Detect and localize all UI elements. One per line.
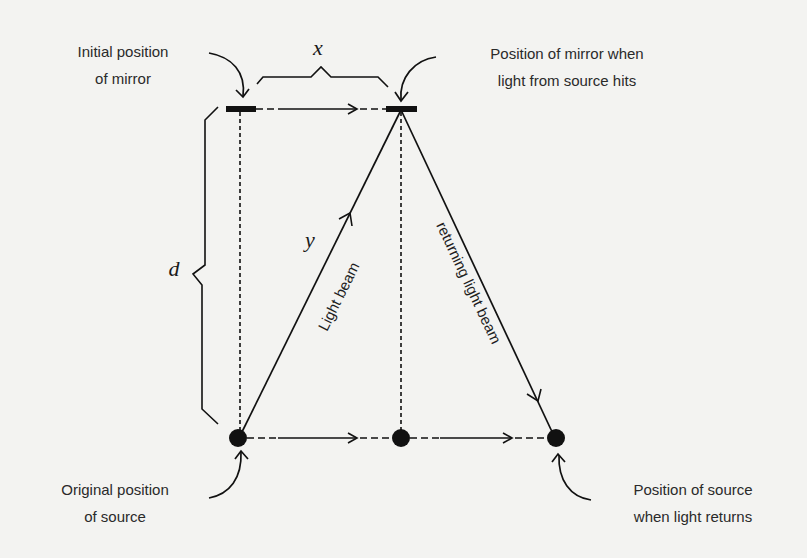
source-return-dot <box>547 429 565 447</box>
returning-beam-label: returning light beam <box>433 219 505 346</box>
svg-text:Initial position: Initial position <box>78 43 169 60</box>
outgoing-light-beam <box>240 112 400 436</box>
svg-text:light from source hits: light from source hits <box>498 72 636 89</box>
pointer-original-source-icon <box>209 452 241 498</box>
label-source-when-returns: Position of source when light returns <box>633 481 753 525</box>
mirror-final <box>386 106 417 112</box>
svg-text:of source: of source <box>84 508 146 525</box>
label-mirror-when-hit: Position of mirror when light from sourc… <box>490 45 643 89</box>
svg-text:Position of source: Position of source <box>633 481 752 498</box>
light-clock-diagram: x d y Light beam returning light beam In… <box>0 0 807 558</box>
d-brace <box>193 107 218 424</box>
mirror-initial <box>226 106 256 112</box>
svg-text:Position of mirror when: Position of mirror when <box>490 45 643 62</box>
svg-text:Original position: Original position <box>61 481 169 498</box>
var-d: d <box>169 256 181 281</box>
var-x: x <box>312 35 323 60</box>
svg-text:when light returns: when light returns <box>633 508 752 525</box>
source-original-dot <box>229 429 247 447</box>
var-y: y <box>303 227 315 252</box>
source-middle-dot <box>392 429 410 447</box>
svg-text:of mirror: of mirror <box>95 70 151 87</box>
pointer-initial-mirror-icon <box>209 53 243 96</box>
label-original-source: Original position of source <box>61 481 169 525</box>
returning-light-beam <box>402 112 554 436</box>
label-initial-mirror: Initial position of mirror <box>78 43 169 87</box>
x-brace <box>257 67 388 87</box>
